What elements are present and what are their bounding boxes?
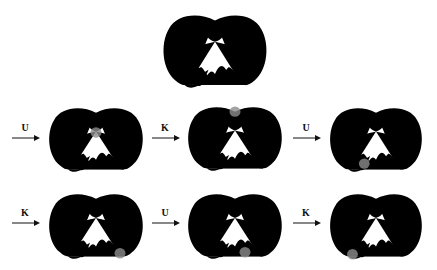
move-arrow-1: U	[12, 123, 42, 143]
move-arrow-4: K	[12, 208, 42, 228]
knot-drawing	[327, 193, 425, 260]
highlight-bottom-crossing-1	[359, 158, 370, 168]
knot-drawing	[46, 193, 146, 260]
move-label: U	[12, 123, 38, 133]
knot-drawing	[327, 107, 425, 173]
knot-drawing	[185, 106, 285, 172]
arrow-right-icon	[293, 219, 323, 227]
original-knot	[160, 14, 270, 89]
knot-step-5	[185, 193, 285, 260]
arrow-right-icon	[12, 219, 42, 227]
move-arrow-6: K	[293, 208, 323, 228]
arrow-right-icon	[293, 134, 323, 142]
highlight-top-crossing	[230, 106, 241, 116]
move-label: K	[152, 123, 178, 133]
move-label: K	[293, 208, 319, 218]
knot-drawing	[46, 107, 146, 173]
highlight-bottom-right-crossing	[115, 248, 126, 259]
knot-step-4	[46, 193, 146, 260]
highlight-bottom-crossing-3	[240, 247, 251, 258]
knot-drawing	[160, 14, 270, 89]
move-label: U	[152, 208, 178, 218]
move-arrow-2: K	[152, 123, 182, 143]
arrow-right-icon	[12, 134, 42, 142]
knot-step-2	[185, 106, 285, 172]
arrow-right-icon	[152, 219, 182, 227]
move-arrow-3: U	[293, 123, 323, 143]
knot-step-6	[327, 193, 425, 260]
knot-step-3	[327, 107, 425, 173]
knot-drawing	[185, 193, 285, 260]
highlight-bottom-left-crossing	[347, 249, 358, 260]
move-label: K	[12, 208, 38, 218]
move-label: U	[293, 123, 319, 133]
highlight-center-crossing	[91, 127, 102, 137]
knot-step-1	[46, 107, 146, 173]
move-arrow-5: U	[152, 208, 182, 228]
arrow-right-icon	[152, 134, 182, 142]
